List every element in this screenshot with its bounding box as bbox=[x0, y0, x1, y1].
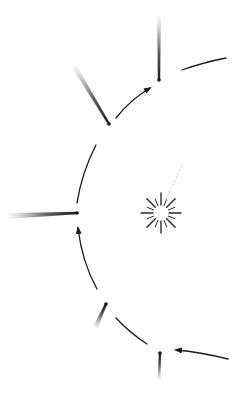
sun-icon bbox=[141, 163, 183, 233]
comet-upper-left-icon bbox=[72, 65, 111, 126]
sun-trace-line bbox=[166, 163, 183, 200]
orbit-segment bbox=[176, 350, 228, 359]
orbit-segment bbox=[78, 228, 97, 289]
comets bbox=[8, 17, 162, 380]
comet-bottom-icon bbox=[158, 351, 162, 380]
comet-orbit-diagram bbox=[0, 0, 240, 400]
comet-top-icon bbox=[157, 17, 161, 82]
orbit-segment bbox=[116, 318, 147, 344]
orbit-segment bbox=[77, 145, 96, 203]
diagram-canvas bbox=[0, 0, 240, 400]
comet-lower-left-icon bbox=[93, 302, 108, 329]
comet-left-icon bbox=[8, 211, 79, 219]
orbit-segment bbox=[116, 88, 150, 118]
orbit-segment bbox=[182, 58, 226, 70]
